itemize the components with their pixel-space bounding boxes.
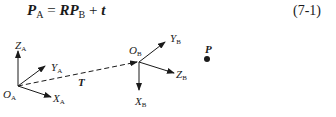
frame-a-z-label: ZA	[15, 40, 26, 53]
frame-a-x-axis	[18, 86, 51, 97]
frame-b-origin-label: OB	[129, 45, 142, 58]
frame-b-z-label: ZB	[176, 69, 187, 82]
frame-b-z-axis	[139, 62, 174, 73]
point-p-dot	[204, 56, 210, 62]
frame-a-y-label: YA	[51, 62, 62, 75]
frame-a-y-axis	[18, 66, 45, 86]
frames-diagram	[0, 0, 336, 117]
frame-b-x-label: XB	[135, 96, 146, 109]
frame-b-y-label: YB	[170, 33, 181, 46]
translation-label: T	[78, 76, 85, 88]
frame-b-y-axis	[139, 42, 165, 62]
point-p-label: P	[205, 43, 212, 55]
frame-a-origin-label: OA	[3, 89, 16, 102]
frame-a-x-label: XA	[53, 93, 65, 106]
